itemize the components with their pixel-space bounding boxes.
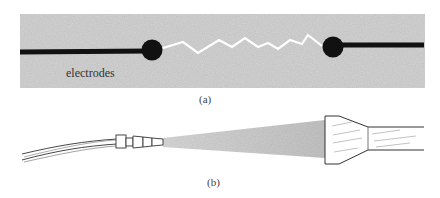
- diagram-canvas: [0, 0, 440, 198]
- optical-fiber: [22, 139, 117, 162]
- left-electrode: [142, 40, 163, 61]
- left-electrode-wire: [20, 51, 150, 52]
- electrodes-label: electrodes: [66, 66, 115, 81]
- caption-b: (b): [207, 176, 220, 188]
- caption-a: (a): [199, 93, 211, 105]
- light-beam: [163, 120, 325, 158]
- panel-b: [22, 116, 424, 164]
- detector-funnel: [325, 116, 424, 164]
- fiber-connector: [116, 135, 163, 148]
